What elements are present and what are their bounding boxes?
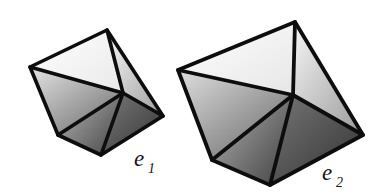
figure-container: e 1 e 2 <box>0 0 382 195</box>
label-e2: e <box>322 160 332 185</box>
label-e1: e <box>134 146 144 171</box>
polyhedron-e2: e 2 <box>178 22 363 190</box>
polyhedra-illustration: e 1 e 2 <box>0 0 382 195</box>
label-e1-subscript: 1 <box>148 161 155 176</box>
polyhedron-e1: e 1 <box>30 30 163 176</box>
label-e2-subscript: 2 <box>336 175 343 190</box>
